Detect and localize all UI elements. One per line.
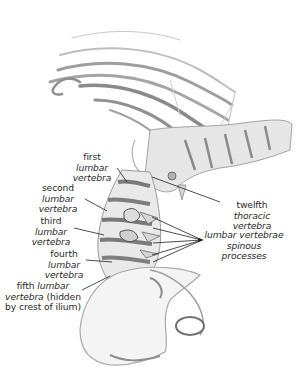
label-text-italic: vertebra [32, 236, 71, 247]
label-twelfth-thoracic: twelfth thoracic vertebra [220, 200, 284, 232]
anatomy-figure: first lumbar vertebra second lumbar vert… [0, 0, 306, 377]
label-text-italic: lumbar [48, 259, 80, 270]
leader-second [85, 199, 107, 211]
label-first-lumbar: first lumbar vertebra [66, 152, 118, 184]
label-second-lumbar: second lumbar vertebra [28, 183, 88, 215]
label-text: first [83, 151, 100, 162]
label-text-italic: lumbar vertebrae [205, 229, 284, 240]
label-text-italic: vertebra [73, 172, 112, 183]
label-text-italic: lumbar [76, 162, 108, 173]
label-text: third [41, 215, 62, 226]
label-text-italic: vertebra [45, 269, 84, 280]
label-text-italic: lumbar [42, 193, 74, 204]
label-text-italic: vertebra [5, 291, 44, 302]
label-spinous-processes: lumbar vertebrae spinous processes [203, 230, 285, 262]
label-text: fifth [17, 280, 38, 291]
label-text-italic: thoracic [234, 210, 270, 221]
label-text-italic: spinous processes [221, 240, 266, 262]
label-fourth-lumbar: fourth lumbar vertebra [34, 249, 94, 281]
label-text: twelfth [236, 199, 267, 210]
label-text-italic: lumbar [37, 280, 69, 291]
label-text-italic: vertebra [39, 203, 78, 214]
label-fifth-lumbar: fifth lumbar vertebra (hidden by crest o… [4, 281, 82, 313]
thoracic-vertebrae [132, 120, 292, 200]
lumbar-vertebrae [98, 170, 161, 280]
label-text-italic: lumbar [35, 226, 67, 237]
label-text: (hidden [44, 291, 81, 302]
label-text: by crest of ilium) [5, 301, 81, 312]
label-text: fourth [50, 248, 77, 259]
label-text: second [42, 182, 74, 193]
label-third-lumbar: third lumbar vertebra [24, 216, 78, 248]
